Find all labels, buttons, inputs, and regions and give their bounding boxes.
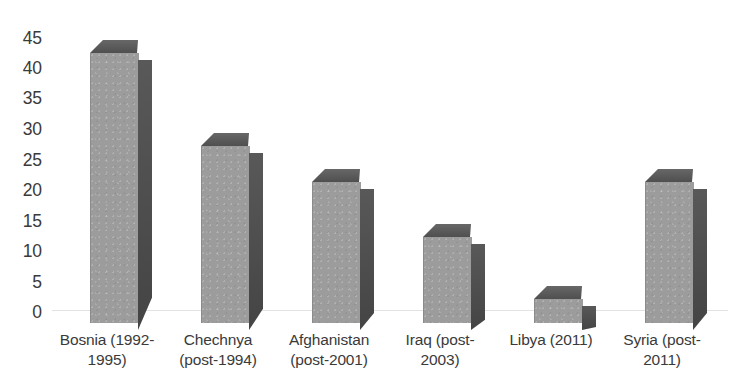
bar-chechnya[interactable] bbox=[201, 146, 249, 323]
bar-side-face bbox=[693, 189, 707, 330]
x-label-line2: 2003) bbox=[375, 350, 505, 370]
bar-top-face bbox=[90, 40, 138, 53]
y-tick-label: 35 bbox=[0, 90, 42, 108]
bar-top-face bbox=[645, 169, 693, 182]
bar-libya[interactable] bbox=[534, 299, 582, 323]
bar-side-face bbox=[138, 60, 152, 330]
bar-front-face bbox=[534, 299, 583, 323]
bar-top-face bbox=[312, 169, 360, 182]
x-label-syria: Syria (post- 2011) bbox=[597, 330, 727, 370]
bar-top-face bbox=[534, 286, 582, 299]
bar-front-face bbox=[201, 146, 250, 323]
x-axis-labels: Bosnia (1992- 1995) Chechnya (post-1994)… bbox=[52, 330, 735, 371]
bar-front-face bbox=[312, 182, 361, 323]
y-tick-label: 40 bbox=[0, 60, 42, 78]
x-label-line1: Syria (post- bbox=[597, 330, 727, 350]
y-tick-label: 45 bbox=[0, 30, 42, 48]
bar-group bbox=[312, 10, 374, 330]
y-tick-label: 0 bbox=[0, 304, 42, 322]
y-tick-label: 10 bbox=[0, 243, 42, 261]
y-tick-label: 5 bbox=[0, 274, 42, 292]
y-tick-label: 15 bbox=[0, 213, 42, 231]
bar-group bbox=[90, 10, 152, 330]
bar-side-face bbox=[360, 189, 374, 330]
bar-afghanistan[interactable] bbox=[312, 182, 360, 323]
y-axis: 45 40 35 30 25 20 15 10 5 0 bbox=[0, 0, 52, 330]
y-tick-label: 25 bbox=[0, 152, 42, 170]
bar-side-face bbox=[582, 306, 596, 330]
plot-area bbox=[52, 0, 735, 330]
bar-bosnia[interactable] bbox=[90, 53, 138, 323]
x-label-line2: 2011) bbox=[597, 350, 727, 370]
bar-chart: 45 40 35 30 25 20 15 10 5 0 bbox=[0, 0, 735, 371]
bar-front-face bbox=[90, 53, 139, 323]
bar-group bbox=[534, 10, 596, 330]
bar-top-face bbox=[423, 224, 471, 237]
bar-syria[interactable] bbox=[645, 182, 693, 323]
bar-top-face bbox=[201, 133, 249, 146]
bar-side-face bbox=[249, 153, 263, 330]
bar-side-face bbox=[471, 244, 485, 330]
y-tick-label: 30 bbox=[0, 121, 42, 139]
bar-iraq[interactable] bbox=[423, 237, 471, 323]
bar-front-face bbox=[645, 182, 694, 323]
bar-group bbox=[201, 10, 263, 330]
bar-group bbox=[423, 10, 485, 330]
bar-group bbox=[645, 10, 707, 330]
bar-front-face bbox=[423, 237, 472, 323]
axis-baseline bbox=[52, 310, 728, 311]
y-tick-label: 20 bbox=[0, 182, 42, 200]
